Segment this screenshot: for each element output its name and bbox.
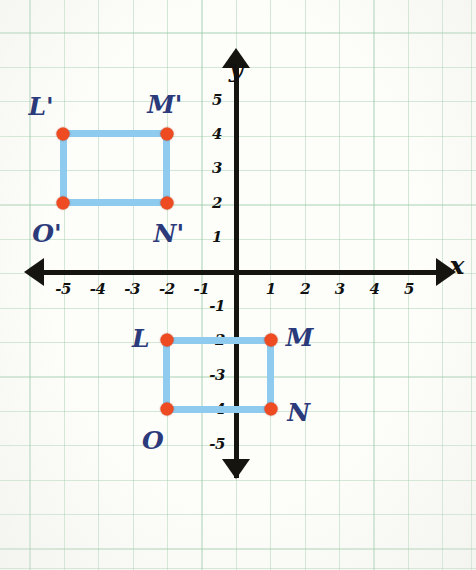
vertex-label: N' — [154, 218, 185, 247]
x-tick-label: -5 — [55, 280, 71, 298]
vertex-label: N — [287, 398, 310, 427]
y-axis-label: y — [229, 54, 244, 83]
x-axis-line — [38, 270, 442, 275]
x-tick-label: 1 — [266, 280, 276, 298]
y-tick-label: 4 — [212, 125, 222, 143]
x-axis-left-arrow-icon — [24, 258, 44, 286]
shape-vertex-point — [160, 403, 173, 416]
y-tick-label: 1 — [212, 228, 222, 246]
shape-edge — [163, 340, 170, 409]
vertex-label: M' — [147, 89, 182, 118]
shape-edge — [63, 199, 167, 206]
vertex-label: O' — [32, 218, 61, 247]
y-tick-label: -1 — [209, 297, 225, 315]
y-tick-label: 2 — [212, 194, 222, 212]
vertex-label: M — [286, 323, 314, 352]
x-tick-label: -3 — [124, 280, 140, 298]
y-tick-label: -3 — [209, 366, 225, 384]
x-tick-label: -2 — [159, 280, 175, 298]
shape-vertex-point — [160, 334, 173, 347]
shape-edge — [167, 337, 271, 344]
y-tick-label: 5 — [212, 91, 222, 109]
shape-vertex-point — [160, 196, 173, 209]
shape-edge — [63, 130, 167, 137]
shape-edge — [163, 134, 170, 203]
vertex-label: L — [132, 324, 150, 353]
y-axis-line — [234, 66, 239, 478]
x-axis-label: x — [450, 251, 465, 280]
vertex-label: O — [142, 426, 164, 455]
shape-vertex-point — [57, 127, 70, 140]
shape-vertex-point — [264, 403, 277, 416]
x-tick-label: -1 — [194, 280, 210, 298]
x-tick-label: -4 — [90, 280, 106, 298]
x-tick-label: 4 — [369, 280, 379, 298]
shape-edge — [267, 340, 274, 409]
vertex-label: L' — [28, 91, 53, 120]
shape-vertex-point — [57, 196, 70, 209]
shape-edge — [167, 406, 271, 413]
shape-edge — [60, 134, 67, 203]
x-tick-label: 3 — [335, 280, 345, 298]
x-tick-label: 5 — [404, 280, 414, 298]
shape-vertex-point — [160, 127, 173, 140]
y-axis-down-arrow-icon — [222, 459, 250, 479]
y-tick-label: 3 — [212, 159, 222, 177]
x-tick-label: 2 — [300, 280, 310, 298]
shape-vertex-point — [264, 334, 277, 347]
graph-canvas: x y -5-4-3-2-11234554321-1-2-3-4-5 L'M'N… — [0, 0, 476, 570]
y-tick-label: -5 — [209, 435, 225, 453]
